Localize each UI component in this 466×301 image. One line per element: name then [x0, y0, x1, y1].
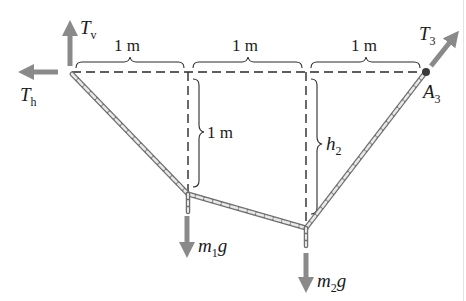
dashed-reference-lines [72, 72, 426, 228]
brace-icon [193, 57, 302, 68]
rope-segment-1 [72, 74, 188, 194]
span-label-3: 1 m [351, 36, 377, 55]
vertical-span-label-1: 1 m [207, 123, 233, 142]
force-label-m2g: m2g [317, 270, 346, 295]
force-label-m1g: m1g [198, 235, 227, 260]
page-edge-line [463, 0, 464, 301]
vertical-braces [193, 79, 322, 214]
statics-diagram: 1 m 1 m 1 m 1 m h2 Tv Th T3 A3 m1g m2g [0, 0, 466, 301]
brace-icon [311, 79, 322, 214]
ropes [72, 73, 425, 246]
brace-icon [311, 57, 420, 68]
force-arrows [26, 28, 454, 285]
rope-segment-3 [306, 73, 425, 228]
force-label-tv: Tv [80, 17, 97, 42]
rope-segment-2 [188, 194, 306, 228]
span-label-2: 1 m [232, 36, 258, 55]
force-label-t3: T3 [419, 23, 436, 48]
horizontal-braces [76, 57, 420, 68]
span-label-1: 1 m [114, 36, 140, 55]
point-label-a3: A3 [421, 81, 441, 106]
force-label-th: Th [20, 84, 37, 109]
brace-icon [76, 57, 184, 68]
anchor-point-a3 [422, 68, 430, 76]
diagram-canvas: 1 m 1 m 1 m 1 m h2 Tv Th T3 A3 m1g m2g [0, 0, 466, 301]
brace-icon [193, 79, 204, 187]
vertical-span-label-h2: h2 [326, 133, 342, 158]
